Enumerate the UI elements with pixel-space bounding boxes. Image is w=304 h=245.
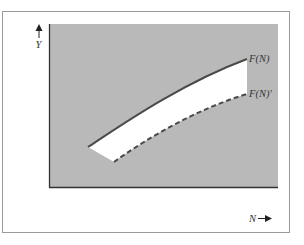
x-axis-label: N [248,213,257,224]
x-arrow-icon [258,215,272,222]
diagram-canvas: Y N F(N) F(N)' [0,0,304,245]
y-axis-label: Y [36,39,43,50]
y-arrow-icon [36,24,43,38]
curve-f-n-label: F(N) [248,53,270,65]
curve-f-n-prime-label: F(N)' [248,88,272,100]
